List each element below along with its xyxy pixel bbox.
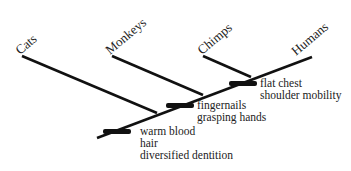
- taxon-label-cats: Cats: [12, 31, 39, 57]
- trait-label-diversified-dentition: diversified dentition: [140, 149, 233, 161]
- monkeys-branch: [112, 56, 203, 95]
- trait-label-shoulder-mobility: shoulder mobility: [260, 89, 342, 102]
- trait-bar-3: [229, 81, 257, 86]
- taxon-label-chimps: Chimps: [194, 20, 235, 58]
- taxon-label-monkeys: Monkeys: [102, 15, 149, 58]
- trait-bar-1: [103, 129, 131, 134]
- trait-label-grasping-hands: grasping hands: [197, 111, 267, 124]
- chimps-branch: [203, 56, 251, 77]
- trait-bar-2: [166, 103, 194, 108]
- trait-label-flat-chest: flat chest: [260, 77, 303, 89]
- taxon-label-humans: Humans: [288, 19, 331, 58]
- trait-label-hair: hair: [140, 137, 158, 149]
- cats-branch: [22, 56, 157, 113]
- trait-label-warm-blood: warm blood: [140, 125, 196, 137]
- cladogram: Cats Monkeys Chimps Humans warm blood ha…: [0, 0, 351, 171]
